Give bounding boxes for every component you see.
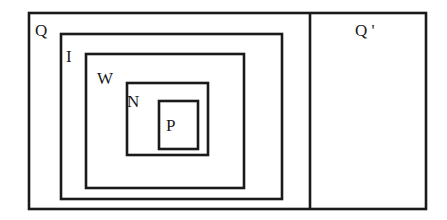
set-diagram: Q I W N P Q ' <box>0 0 447 220</box>
label-i: I <box>66 47 72 66</box>
frame-outer <box>29 13 426 209</box>
label-q-prime: Q ' <box>355 21 375 40</box>
set-p-box <box>159 101 198 149</box>
label-n: N <box>127 92 139 111</box>
label-p: P <box>166 116 175 135</box>
label-w: W <box>97 69 114 88</box>
label-q: Q <box>35 21 47 40</box>
